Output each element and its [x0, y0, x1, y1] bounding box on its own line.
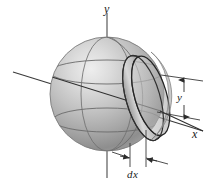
x-axis-label: x [192, 128, 197, 140]
disk-radius-label: y [177, 92, 182, 103]
thickness-tick-left [112, 152, 130, 158]
disk-thickness-label: dx [127, 169, 138, 180]
sphere-disk-diagram [0, 0, 215, 190]
y-axis-label: y [104, 3, 109, 15]
